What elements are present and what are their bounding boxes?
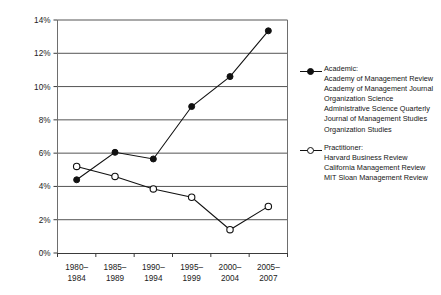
chart-legend: Academic: Academy of Management Review A… bbox=[300, 0, 441, 295]
x-axis-tick-label: 1995– bbox=[180, 263, 203, 272]
x-axis-tick-label: 2007 bbox=[259, 274, 278, 283]
x-axis-tick-label: 2004 bbox=[221, 274, 240, 283]
open-circle-marker-icon bbox=[300, 147, 322, 155]
data-point-practitioner bbox=[150, 186, 156, 192]
legend-academic-journal: Academy of Management Journal bbox=[300, 84, 441, 94]
series-markers bbox=[73, 28, 271, 233]
x-axis-tick-label: 1994 bbox=[144, 274, 163, 283]
line-chart-svg: 0%2%4%6%8%10%12%14% 1980–19841985–198919… bbox=[0, 0, 300, 295]
y-axis-tick-label: 0% bbox=[39, 249, 51, 258]
legend-academic-title: Academic: bbox=[324, 64, 358, 73]
y-axis-tick-label: 6% bbox=[39, 149, 51, 158]
y-axis-tick-label: 4% bbox=[39, 182, 51, 191]
data-point-academic bbox=[189, 104, 195, 110]
legend-practitioner-journal: MIT Sloan Management Review bbox=[300, 173, 441, 183]
data-point-practitioner bbox=[112, 173, 118, 179]
data-point-practitioner bbox=[188, 194, 194, 200]
legend-academic-journal: Administrative Science Quarterly bbox=[300, 104, 441, 114]
filled-diamond-marker-icon bbox=[300, 68, 322, 76]
y-axis-tick-label: 2% bbox=[39, 216, 51, 225]
data-point-practitioner bbox=[227, 227, 233, 233]
x-axis-tick-label: 1984 bbox=[68, 274, 87, 283]
legend-practitioner-journal: Harvard Business Review bbox=[300, 153, 441, 163]
legend-academic-journal: Organization Studies bbox=[300, 125, 441, 135]
y-axis-tick-labels: 0%2%4%6%8%10%12%14% bbox=[34, 16, 50, 258]
legend-practitioner-journal: California Management Review bbox=[300, 163, 441, 173]
data-point-academic bbox=[150, 156, 156, 162]
legend-entry-academic: Academic: Academy of Management Review A… bbox=[300, 64, 441, 135]
data-point-practitioner bbox=[73, 163, 79, 169]
x-axis-tick-label: 1980– bbox=[65, 263, 88, 272]
legend-academic-journal: Academy of Management Review bbox=[300, 74, 441, 84]
x-axis-tick-label: 1990– bbox=[142, 263, 165, 272]
x-axis-tick-labels: 1980–19841985–19891990–19941995–19992000… bbox=[65, 263, 280, 283]
data-point-academic bbox=[227, 74, 233, 80]
y-axis-tick-label: 8% bbox=[39, 116, 51, 125]
data-point-academic bbox=[74, 177, 80, 183]
series-lines bbox=[77, 31, 269, 230]
legend-practitioner-title: Practitioner: bbox=[324, 143, 363, 152]
y-axis-tick-label: 14% bbox=[34, 16, 50, 25]
legend-academic-head: Academic: bbox=[300, 64, 441, 74]
legend-practitioner-head: Practitioner: bbox=[300, 143, 441, 153]
x-axis-tick-label: 1989 bbox=[106, 274, 125, 283]
y-axis-ticks bbox=[54, 20, 58, 253]
x-axis-tick-label: 1999 bbox=[183, 274, 202, 283]
legend-entry-practitioner: Practitioner: Harvard Business Review Ca… bbox=[300, 143, 441, 183]
x-axis-tick-label: 1985– bbox=[104, 263, 127, 272]
data-point-academic bbox=[265, 28, 271, 34]
data-point-academic bbox=[112, 149, 118, 155]
legend-academic-journal: Journal of Management Studies bbox=[300, 114, 441, 124]
legend-academic-journal: Organization Science bbox=[300, 94, 441, 104]
data-point-practitioner bbox=[265, 203, 271, 209]
y-axis-tick-label: 12% bbox=[34, 49, 50, 58]
x-axis-tick-label: 2005– bbox=[257, 263, 280, 272]
chart-plot-area: 0%2%4%6%8%10%12%14% 1980–19841985–198919… bbox=[0, 0, 300, 295]
figure: 0%2%4%6%8%10%12%14% 1980–19841985–198919… bbox=[0, 0, 441, 295]
x-axis-tick-label: 2000– bbox=[219, 263, 242, 272]
y-axis-tick-label: 10% bbox=[34, 83, 50, 92]
